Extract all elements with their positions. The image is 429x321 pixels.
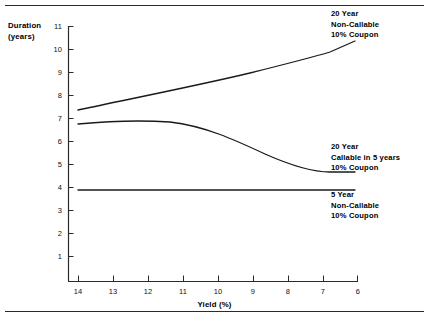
x-tick-label: 14 bbox=[70, 287, 86, 296]
series-label-line1: 5 Year bbox=[331, 190, 379, 201]
y-tick-label: 10 bbox=[48, 45, 62, 54]
y-axis-title-line1: Duration bbox=[8, 21, 41, 32]
series-label-line1: 20 Year bbox=[331, 142, 400, 153]
x-tick-label: 6 bbox=[350, 287, 366, 296]
y-axis-ticks bbox=[69, 27, 74, 257]
y-tick-label: 2 bbox=[48, 229, 62, 238]
x-tick-label: 9 bbox=[245, 287, 261, 296]
y-tick-label: 7 bbox=[48, 114, 62, 123]
series-label-line2: Non-Callable bbox=[331, 201, 379, 212]
series-label-line2: Non-Callable bbox=[331, 20, 379, 31]
x-tick-label: 13 bbox=[105, 287, 121, 296]
x-tick-label: 12 bbox=[140, 287, 156, 296]
y-tick-label: 8 bbox=[48, 91, 62, 100]
y-tick-label: 3 bbox=[48, 206, 62, 215]
series-label-20yr-callable: 20 Year Callable in 5 years 10% Coupon bbox=[331, 142, 400, 174]
series-line-20yr-non-callable bbox=[78, 41, 355, 110]
chart-figure: Duration (years) 11 10 9 8 7 6 5 4 3 2 1… bbox=[0, 0, 429, 321]
series-label-line2: Callable in 5 years bbox=[331, 153, 400, 164]
x-tick-label: 10 bbox=[210, 287, 226, 296]
series-line-20yr-callable bbox=[78, 121, 355, 172]
y-tick-label: 1 bbox=[48, 252, 62, 261]
series-label-20yr-non-callable: 20 Year Non-Callable 10% Coupon bbox=[331, 9, 379, 41]
y-axis-title-line2: (years) bbox=[8, 32, 41, 43]
y-tick-label: 4 bbox=[48, 183, 62, 192]
x-axis-ticks bbox=[79, 276, 358, 282]
series-label-5yr-non-callable: 5 Year Non-Callable 10% Coupon bbox=[331, 190, 379, 222]
series-label-line3: 10% Coupon bbox=[331, 211, 379, 222]
y-tick-label: 5 bbox=[48, 160, 62, 169]
y-tick-label: 9 bbox=[48, 68, 62, 77]
series-label-line1: 20 Year bbox=[331, 9, 379, 20]
y-tick-label: 11 bbox=[48, 22, 62, 31]
x-axis-title: Yield (%) bbox=[0, 300, 429, 311]
x-tick-label: 7 bbox=[315, 287, 331, 296]
series-label-line3: 10% Coupon bbox=[331, 30, 379, 41]
y-axis-title: Duration (years) bbox=[8, 21, 41, 42]
series-label-line3: 10% Coupon bbox=[331, 163, 400, 174]
x-tick-label: 8 bbox=[280, 287, 296, 296]
x-tick-label: 11 bbox=[175, 287, 191, 296]
y-tick-label: 6 bbox=[48, 137, 62, 146]
